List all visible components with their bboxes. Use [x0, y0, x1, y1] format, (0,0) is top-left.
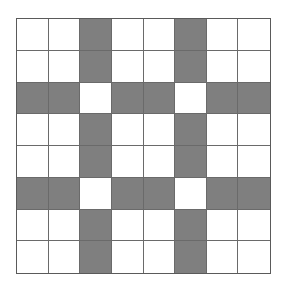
grid-cell-shaded	[80, 210, 112, 242]
grid-cell-empty	[238, 19, 270, 51]
grid-cell-empty	[112, 210, 144, 242]
grid-cell-empty	[112, 146, 144, 178]
grid-cell-empty	[17, 51, 49, 83]
grid-cell-shaded	[207, 83, 239, 115]
grid-cell-empty	[80, 178, 112, 210]
grid-cell-empty	[144, 51, 176, 83]
grid-cell-empty	[238, 146, 270, 178]
grid-cell-shaded	[175, 241, 207, 273]
grid-cell-shaded	[175, 51, 207, 83]
grid-cell-empty	[112, 19, 144, 51]
grid-cell-empty	[207, 51, 239, 83]
grid-cell-empty	[49, 114, 81, 146]
grid-cell-shaded	[80, 51, 112, 83]
grid-cell-shaded	[80, 146, 112, 178]
grid-cell-empty	[49, 19, 81, 51]
grid-cell-empty	[49, 210, 81, 242]
grid-cell-empty	[207, 210, 239, 242]
grid-cell-empty	[17, 19, 49, 51]
grid-cell-shaded	[144, 83, 176, 115]
grid-cell-empty	[49, 146, 81, 178]
grid-cell-empty	[80, 83, 112, 115]
grid-cell-shaded	[17, 178, 49, 210]
grid-cell-shaded	[175, 114, 207, 146]
grid-cell-empty	[112, 51, 144, 83]
grid-cell-empty	[238, 114, 270, 146]
grid-cell-empty	[238, 241, 270, 273]
grid-cell-shaded	[80, 114, 112, 146]
grid-cell-shaded	[112, 178, 144, 210]
grid-cell-empty	[112, 114, 144, 146]
grid-cell-shaded	[80, 19, 112, 51]
grid-cell-empty	[17, 210, 49, 242]
grid-cell-empty	[49, 51, 81, 83]
grid-cell-empty	[175, 178, 207, 210]
grid-cell-shaded	[17, 83, 49, 115]
grid-cell-shaded	[238, 83, 270, 115]
grid-cell-shaded	[80, 241, 112, 273]
grid-cell-shaded	[175, 210, 207, 242]
grid-cell-shaded	[238, 178, 270, 210]
grid-cell-shaded	[112, 83, 144, 115]
grid-cell-empty	[144, 114, 176, 146]
grid-cell-empty	[238, 51, 270, 83]
grid-cell-empty	[175, 83, 207, 115]
grid-cell-empty	[144, 210, 176, 242]
grid-cell-shaded	[175, 146, 207, 178]
grid-cell-shaded	[144, 178, 176, 210]
grid-cell-empty	[17, 146, 49, 178]
grid-cell-empty	[144, 146, 176, 178]
grid-cell-shaded	[175, 19, 207, 51]
grid-cell-empty	[17, 241, 49, 273]
grid-cell-empty	[207, 19, 239, 51]
grid-cell-empty	[144, 19, 176, 51]
grid-cell-empty	[207, 146, 239, 178]
grid-cell-shaded	[207, 178, 239, 210]
grid-cell-empty	[17, 114, 49, 146]
grid-cell-empty	[112, 241, 144, 273]
grid-cell-empty	[207, 241, 239, 273]
shaded-grid	[16, 18, 271, 274]
grid-cell-shaded	[49, 178, 81, 210]
grid-cell-empty	[144, 241, 176, 273]
grid-cell-empty	[238, 210, 270, 242]
grid-cell-empty	[207, 114, 239, 146]
grid-cell-empty	[49, 241, 81, 273]
grid-cell-shaded	[49, 83, 81, 115]
